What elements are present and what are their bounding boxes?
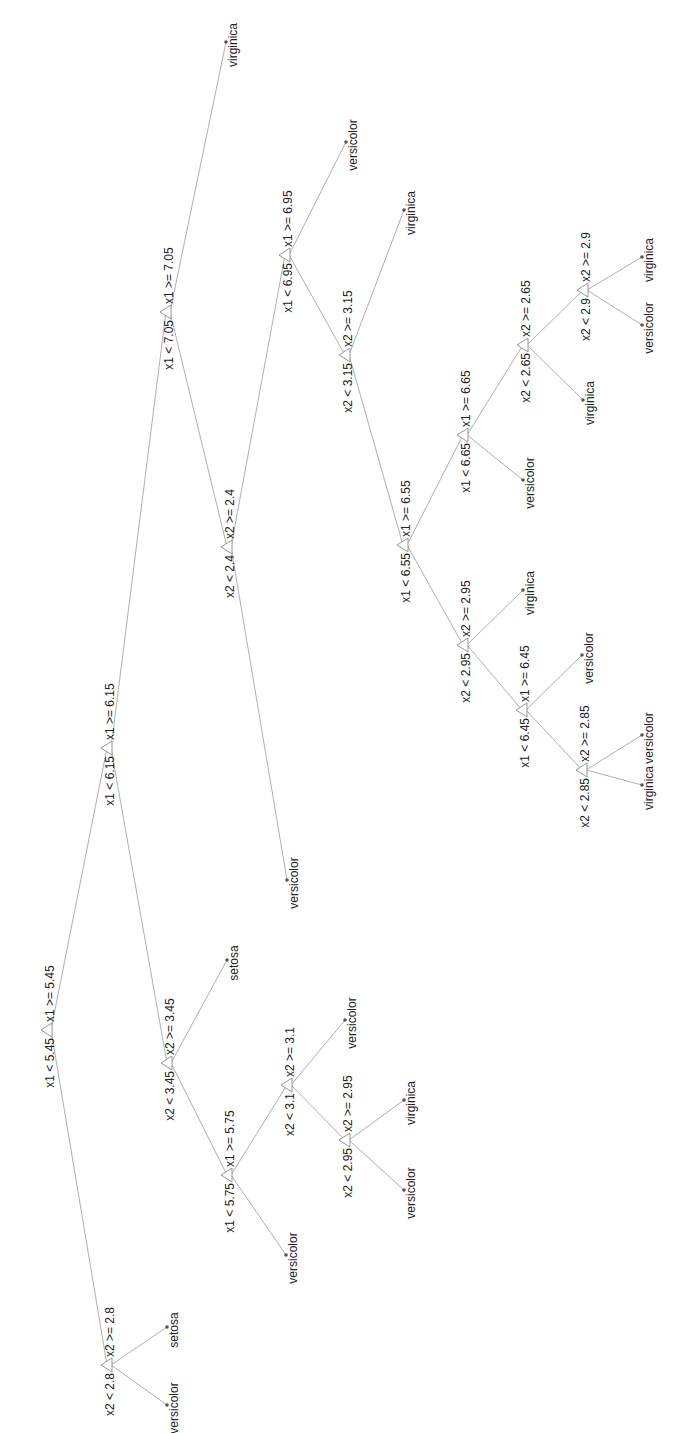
tree-edge xyxy=(526,655,582,710)
leaf-class-label: setosa xyxy=(227,945,241,981)
tree-edge xyxy=(170,42,226,312)
split-condition-right: x2 >= 2.95 xyxy=(341,1075,355,1132)
leaf-node: setosa xyxy=(225,945,241,981)
decision-node: x2 < 2.8x2 >= 2.8 xyxy=(101,1307,117,1416)
tree-edge xyxy=(349,1100,404,1140)
leaf-node: virginica xyxy=(640,238,656,282)
decision-node-triangle-icon xyxy=(101,741,112,755)
decision-node: x2 < 2.9x2 >= 2.9 xyxy=(577,232,593,341)
split-condition-right: x2 >= 2.95 xyxy=(459,580,473,637)
tree-edge xyxy=(231,255,285,547)
tree-edge xyxy=(527,345,583,400)
split-condition-right: x2 >= 3.15 xyxy=(341,290,355,347)
decision-node-triangle-icon xyxy=(281,1078,292,1092)
leaf-node: versicolor xyxy=(285,857,301,908)
decision-node-triangle-icon xyxy=(339,348,350,362)
tree-edge xyxy=(467,645,522,710)
leaf-node: virginica xyxy=(581,381,597,425)
tree-edge xyxy=(467,590,523,645)
leaf-class-label: versicolor xyxy=(345,997,359,1048)
tree-edge xyxy=(231,1085,287,1175)
decision-node: x1 < 6.65x1 >= 6.65 xyxy=(457,370,473,493)
tree-edge xyxy=(467,435,523,480)
split-condition-left: x2 < 2.9 xyxy=(579,298,593,341)
tree-edge xyxy=(586,770,642,785)
tree-edge xyxy=(349,210,404,355)
leaf-class-label: setosa xyxy=(167,1312,181,1348)
split-condition-left: x1 < 6.55 xyxy=(399,553,413,603)
split-condition-right: x1 >= 6.55 xyxy=(399,480,413,537)
split-condition-left: x2 < 3.1 xyxy=(283,1093,297,1136)
split-condition-left: x2 < 3.45 xyxy=(163,1071,177,1121)
tree-edge xyxy=(111,748,167,1063)
split-condition-right: x1 >= 6.15 xyxy=(103,683,117,740)
leaf-class-label: virginica xyxy=(226,23,240,67)
split-condition-left: x1 < 7.05 xyxy=(162,320,176,370)
tree-edge xyxy=(289,255,345,355)
leaf-node: versicolor xyxy=(402,1167,418,1218)
leaf-node: versicolor xyxy=(580,632,596,683)
leaf-node: versicolor xyxy=(521,457,537,508)
decision-node-triangle-icon xyxy=(397,538,408,552)
split-condition-right: x1 >= 6.45 xyxy=(518,645,532,702)
tree-edge xyxy=(111,1327,167,1365)
split-condition-left: x1 < 6.45 xyxy=(518,718,532,768)
leaf-node: versicolor xyxy=(165,1382,181,1433)
tree-edge xyxy=(231,1175,286,1255)
leaf-class-label: versicolor xyxy=(346,119,360,170)
tree-edge xyxy=(111,312,166,748)
tree-edge xyxy=(407,435,463,545)
tree-edge xyxy=(289,142,346,255)
split-condition-right: x2 >= 2.4 xyxy=(223,489,237,539)
leaf-node: versicolor xyxy=(640,712,656,763)
leaf-class-label: virginica xyxy=(523,571,537,615)
tree-edges xyxy=(51,42,642,1405)
leaf-node: virginica xyxy=(224,23,240,67)
tree-edge xyxy=(586,735,642,770)
decision-node-triangle-icon xyxy=(41,1023,52,1037)
decision-node: x1 < 5.75x1 >= 5.75 xyxy=(221,1110,237,1233)
split-condition-left: x1 < 5.75 xyxy=(223,1183,237,1233)
tree-edge xyxy=(171,1063,227,1175)
tree-edge xyxy=(349,355,403,545)
decision-node-triangle-icon xyxy=(221,1168,232,1182)
decision-node: x1 < 7.05x1 >= 7.05 xyxy=(160,247,176,370)
leaf-class-label: versicolor xyxy=(286,1232,300,1283)
leaf-class-label: versicolor xyxy=(523,457,537,508)
leaf-node: setosa xyxy=(165,1312,181,1348)
tree-edge xyxy=(587,257,642,290)
split-condition-right: x2 >= 3.1 xyxy=(283,1027,297,1077)
leaf-node: versicolor xyxy=(284,1232,300,1283)
split-condition-right: x1 >= 5.45 xyxy=(43,965,57,1022)
tree-edge xyxy=(171,960,227,1063)
split-condition-right: x2 >= 2.8 xyxy=(103,1307,117,1357)
split-condition-right: x1 >= 6.65 xyxy=(459,370,473,427)
decision-node-triangle-icon xyxy=(517,338,528,352)
tree-edge xyxy=(231,547,287,880)
tree-edge xyxy=(111,1365,167,1405)
tree-edge xyxy=(527,290,583,345)
decision-node-triangle-icon xyxy=(221,540,232,554)
leaf-class-label: virginica xyxy=(404,1081,418,1125)
leaf-node: virginica xyxy=(521,571,537,615)
leaf-class-label: versicolor xyxy=(167,1382,181,1433)
decision-node: x2 < 3.15x2 >= 3.15 xyxy=(339,290,355,413)
leaf-class-label: versicolor xyxy=(404,1167,418,1218)
split-condition-left: x2 < 2.95 xyxy=(341,1148,355,1198)
decision-node-triangle-icon xyxy=(457,638,468,652)
split-condition-left: x2 < 2.8 xyxy=(103,1373,117,1416)
decision-node: x2 < 2.4x2 >= 2.4 xyxy=(221,489,237,598)
tree-edge xyxy=(407,545,463,645)
decision-node: x2 < 3.1x2 >= 3.1 xyxy=(281,1027,297,1136)
decision-node-triangle-icon xyxy=(577,283,588,297)
split-condition-right: x2 >= 2.85 xyxy=(578,705,592,762)
decision-node-triangle-icon xyxy=(457,428,468,442)
decision-node: x1 < 6.15x1 >= 6.15 xyxy=(101,683,117,806)
split-condition-right: x2 >= 2.9 xyxy=(579,232,593,282)
leaf-class-label: virginica xyxy=(583,381,597,425)
tree-decision-nodes: x1 < 5.45x1 >= 5.45x2 < 2.8x2 >= 2.8x1 <… xyxy=(41,190,593,1416)
decision-node: x2 < 3.45x2 >= 3.45 xyxy=(161,998,177,1121)
split-condition-right: x2 >= 3.45 xyxy=(163,998,177,1055)
split-condition-left: x1 < 6.65 xyxy=(459,443,473,493)
split-condition-left: x2 < 2.65 xyxy=(519,353,533,403)
